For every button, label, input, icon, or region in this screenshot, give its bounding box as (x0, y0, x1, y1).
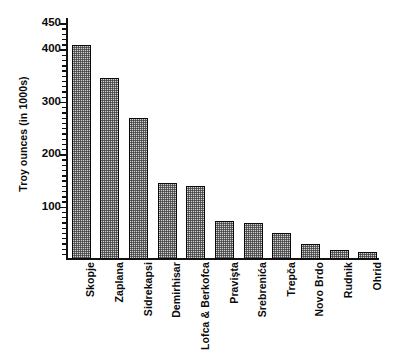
bar (158, 183, 177, 259)
plot-area: 100200300400450 (66, 18, 381, 260)
bar (72, 45, 91, 259)
x-axis-tick-label-text: Novo Brdo (314, 262, 325, 317)
bar (100, 78, 119, 259)
x-axis-tick-label-text: Lofca & Berkofca (200, 262, 211, 350)
bar (215, 221, 234, 259)
bar (301, 244, 320, 259)
y-tick-label: 100 (42, 201, 61, 213)
x-axis-tick-label: Skopje (85, 262, 96, 297)
x-axis-tick-label-text: Zaplana (114, 262, 125, 302)
bar (272, 233, 291, 259)
y-axis-title: Troy ounces (in 1000s) (17, 49, 29, 219)
x-axis-tick-label: Pravişta (229, 262, 240, 304)
y-tick-label: 450 (42, 17, 61, 29)
bar (358, 252, 377, 259)
x-axis-tick-label-text: Srebrenića (257, 262, 268, 317)
bar (330, 250, 349, 259)
x-axis-tick-label-text: Demirhisar (171, 262, 182, 318)
bars-group (66, 18, 381, 259)
x-axis-tick-label-text: Sidrekapsi (143, 262, 154, 316)
x-axis-tick-label-text: Pravişta (229, 262, 240, 304)
y-tick-label: 400 (42, 44, 61, 56)
x-axis-tick-label: Sidrekapsi (143, 262, 154, 316)
x-axis-tick-label: Lofca & Berkofca (200, 262, 211, 350)
bar (244, 223, 263, 259)
x-axis-tick-label: Trepča (286, 262, 297, 296)
x-axis-tick-label: Zaplana (114, 262, 125, 302)
x-axis-tick-label: Demirhisar (171, 262, 182, 318)
x-axis-tick-label: Novo Brdo (314, 262, 325, 317)
x-axis-tick-label: Rudnik (343, 262, 354, 298)
x-axis-tick-label: Srebrenića (257, 262, 268, 317)
x-axis-tick-label-text: Trepča (286, 262, 297, 296)
y-tick-label: 200 (42, 148, 61, 160)
bar (186, 186, 205, 259)
x-axis-tick-label-text: Skopje (85, 262, 96, 297)
y-tick-label: 300 (42, 96, 61, 108)
x-axis-labels: SkopjeZaplanaSidrekapsiDemirhisarLofca &… (66, 262, 381, 362)
x-axis-tick-label-text: Rudnik (343, 262, 354, 298)
bar (129, 118, 148, 259)
x-axis-tick-label-text: Ohrid (372, 262, 383, 291)
bar-chart: Troy ounces (in 1000s) 100200300400450 S… (0, 0, 393, 364)
x-axis-tick-label: Ohrid (372, 262, 383, 291)
